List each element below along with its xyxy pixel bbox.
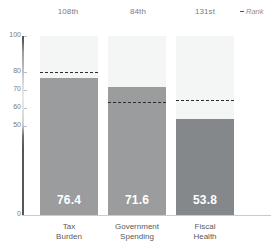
ytick-label-100: 100 [9, 31, 21, 38]
reference-line-fiscal-health [176, 100, 234, 101]
ytick-label-0: 0 [17, 210, 21, 217]
bar-tax-burden[interactable]: 76.4 [40, 78, 98, 215]
rank-bar-chart: 108th 84th 131st Rank 100 80 70 60 50 [0, 0, 271, 248]
ytick-label-70: 70 [13, 85, 21, 92]
bar-value-government-spending: 71.6 [108, 193, 166, 207]
ytick-label-60: 60 [13, 103, 21, 110]
plot-area: 100 80 70 60 50 0 76.4 [0, 24, 271, 224]
bar-value-fiscal-health: 53.8 [176, 193, 234, 207]
axis-baseline [22, 215, 271, 216]
x-label-tax-burden: Tax Burden [36, 222, 102, 242]
rank-row: 108th 84th 131st Rank [0, 0, 271, 24]
x-label-fiscal-health: Fiscal Health [172, 222, 238, 242]
rank-label-government-spending: 84th [105, 7, 171, 16]
ytick-label-80: 80 [13, 67, 21, 74]
bar-value-tax-burden: 76.4 [40, 193, 98, 207]
x-axis-labels: Tax Burden Government Spending Fiscal He… [0, 222, 271, 248]
bar-government-spending[interactable]: 71.6 [108, 87, 166, 215]
dash-marker-icon [240, 11, 244, 13]
ytick-label-50: 50 [13, 121, 21, 128]
legend: Rank [240, 7, 264, 16]
x-label-government-spending: Government Spending [104, 222, 170, 242]
reference-line-government-spending [108, 102, 166, 103]
rank-label-tax-burden: 108th [35, 7, 101, 16]
rank-label-fiscal-health: 131st [172, 7, 238, 16]
axis-spine-gradient [22, 36, 24, 215]
legend-label-rank: Rank [246, 7, 264, 16]
reference-line-tax-burden [40, 72, 98, 73]
bar-fiscal-health[interactable]: 53.8 [176, 119, 234, 215]
